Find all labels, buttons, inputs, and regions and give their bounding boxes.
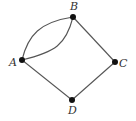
node-b — [70, 14, 76, 20]
edge-c-d — [72, 62, 115, 100]
label-d: D — [67, 104, 77, 117]
edge-d-a — [22, 60, 72, 100]
node-d — [69, 97, 75, 103]
graph-diagram: A B C D — [0, 0, 136, 121]
edge-b-c — [73, 17, 115, 62]
node-c — [112, 59, 118, 65]
label-b: B — [69, 0, 78, 13]
node-a — [19, 57, 25, 63]
edge-a-b-upper — [22, 17, 73, 60]
label-c: C — [119, 57, 128, 70]
edge-a-b-lower — [22, 17, 73, 60]
label-a: A — [8, 56, 17, 69]
